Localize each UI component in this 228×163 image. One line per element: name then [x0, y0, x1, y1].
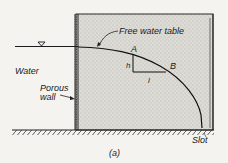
- ground: [12, 130, 214, 135]
- slot-label: Slot: [192, 135, 208, 145]
- figure-caption: (a): [109, 148, 120, 158]
- seepage-diagram: Free water table Water Porous wall A B h…: [0, 0, 228, 163]
- water-level-triangle-icon: [38, 42, 45, 46]
- porous-wall-label-line2: wall: [40, 92, 57, 102]
- point-a-label: A: [130, 44, 137, 54]
- water-label: Water: [15, 66, 40, 76]
- arrow-head-icon: [70, 96, 75, 100]
- free-water-table-label: Free water table: [119, 26, 184, 36]
- h-label: h: [126, 61, 131, 70]
- l-label: l: [148, 76, 150, 85]
- point-b-label: B: [170, 61, 176, 71]
